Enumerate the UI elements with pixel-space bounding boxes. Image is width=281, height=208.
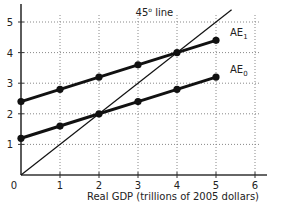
data-point bbox=[173, 86, 180, 93]
y-tick-label: 1 bbox=[7, 139, 13, 150]
x-axis-label: Real GDP (trillions of 2005 dollars) bbox=[87, 191, 259, 202]
y-tick-label: 2 bbox=[7, 109, 13, 120]
data-series bbox=[17, 10, 231, 175]
y-tick-label: 5 bbox=[7, 17, 13, 28]
data-point bbox=[95, 73, 102, 80]
data-point bbox=[56, 122, 63, 129]
series-label: AE1 bbox=[230, 27, 248, 41]
data-point bbox=[134, 61, 141, 68]
x-tick-label: 3 bbox=[135, 180, 141, 191]
data-point bbox=[56, 86, 63, 93]
x-tick-label: 6 bbox=[252, 180, 258, 191]
x-tick-label: 0 bbox=[11, 180, 17, 191]
x-tick-label: 5 bbox=[213, 180, 219, 191]
data-point bbox=[17, 135, 24, 142]
annotation-45-line: 45o line bbox=[136, 6, 174, 18]
data-point bbox=[212, 37, 219, 44]
series-labels: AE1AE045o line bbox=[136, 6, 248, 78]
series-line-ae1 bbox=[21, 40, 216, 101]
data-point bbox=[212, 73, 219, 80]
x-tick-label: 1 bbox=[57, 180, 63, 191]
x-tick-label: 4 bbox=[174, 180, 180, 191]
series-label: AE0 bbox=[230, 64, 248, 78]
y-tick-label: 4 bbox=[7, 48, 13, 59]
data-point bbox=[17, 98, 24, 105]
x-tick-label: 2 bbox=[96, 180, 102, 191]
chart: 012345612345 AE1AE045o line Real GDP (tr… bbox=[0, 0, 281, 208]
grid-lines bbox=[21, 14, 259, 175]
y-tick-label: 3 bbox=[7, 78, 13, 89]
series-line-ae0 bbox=[21, 77, 216, 138]
data-point bbox=[134, 98, 141, 105]
